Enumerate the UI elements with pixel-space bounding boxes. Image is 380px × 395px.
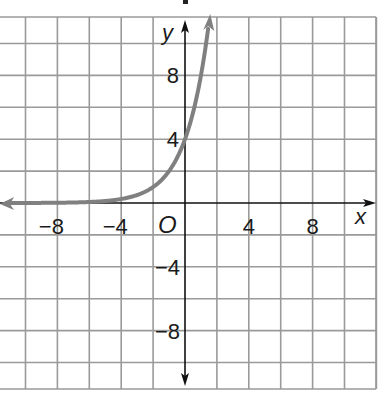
x-tick-label: 4 (243, 214, 255, 239)
cut-title-fragment (183, 0, 188, 4)
y-tick-label: −8 (155, 319, 180, 344)
x-tick-label: −4 (103, 214, 128, 239)
exponential-graph: −8−44884−4−8 x y O (0, 0, 380, 395)
x-axis-label: x (354, 204, 367, 229)
y-tick-label: −4 (155, 255, 180, 280)
y-axis-label: y (160, 20, 175, 45)
x-tick-label: −8 (39, 214, 64, 239)
y-tick-label: 4 (167, 127, 179, 152)
y-tick-label: 8 (167, 63, 179, 88)
origin-label: O (158, 211, 177, 238)
x-tick-label: 8 (306, 214, 318, 239)
curve-path (6, 29, 208, 203)
